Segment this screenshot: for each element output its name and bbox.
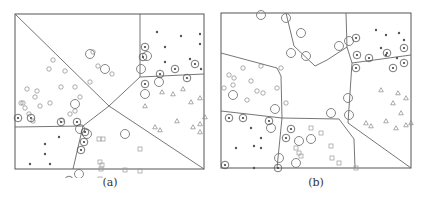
star-point-icon bbox=[375, 29, 377, 31]
star-point-icon bbox=[386, 52, 388, 54]
star-point-icon bbox=[268, 120, 270, 122]
star-point-icon bbox=[368, 57, 370, 59]
support-vector-marker bbox=[229, 91, 238, 100]
star-point-icon bbox=[403, 47, 405, 49]
support-vector-marker bbox=[302, 52, 311, 61]
circle-point-icon bbox=[279, 66, 283, 70]
triangle-point-icon bbox=[364, 121, 369, 125]
circle-point-icon bbox=[284, 101, 288, 105]
triangle-point-icon bbox=[404, 96, 409, 100]
star-point-icon bbox=[380, 47, 382, 49]
square-point-icon bbox=[309, 126, 313, 130]
star-point-icon bbox=[235, 147, 237, 149]
star-point-icon bbox=[250, 127, 252, 129]
square-point-icon bbox=[330, 156, 334, 160]
star-point-icon bbox=[403, 62, 405, 64]
triangle-point-icon bbox=[399, 111, 404, 115]
support-vector-marker bbox=[292, 159, 301, 168]
boundary-line bbox=[348, 63, 411, 168]
boundary-line bbox=[286, 13, 347, 66]
triangle-point-icon bbox=[394, 126, 399, 130]
star-point-icon bbox=[285, 137, 287, 139]
circle-point-icon bbox=[259, 64, 263, 68]
star-point-icon bbox=[290, 128, 292, 130]
circle-point-icon bbox=[245, 98, 249, 102]
circle-point-icon bbox=[227, 73, 231, 77]
boundary-line bbox=[277, 118, 282, 168]
star-point-icon bbox=[253, 145, 255, 147]
triangle-point-icon bbox=[384, 119, 389, 123]
circle-point-icon bbox=[275, 86, 279, 90]
star-point-icon bbox=[277, 167, 279, 169]
circle-point-icon bbox=[249, 79, 253, 83]
boundary-line bbox=[221, 53, 282, 118]
support-vector-marker bbox=[327, 109, 336, 118]
star-point-icon bbox=[260, 147, 262, 149]
decision-boundary-plot-b bbox=[0, 0, 424, 178]
circle-point-icon bbox=[241, 66, 245, 70]
circle-point-icon bbox=[255, 89, 259, 93]
star-point-icon bbox=[224, 164, 226, 166]
star-point-icon bbox=[228, 117, 230, 119]
caption-b: (b) bbox=[296, 176, 336, 189]
support-vector-marker bbox=[257, 11, 266, 20]
star-point-icon bbox=[403, 39, 405, 41]
triangle-point-icon bbox=[379, 88, 384, 92]
star-point-icon bbox=[260, 137, 262, 139]
support-vector-marker bbox=[307, 135, 316, 144]
support-vector-marker bbox=[271, 105, 280, 114]
star-point-icon bbox=[398, 32, 400, 34]
star-point-icon bbox=[396, 57, 398, 59]
plot-area bbox=[221, 11, 413, 172]
star-point-icon bbox=[242, 117, 244, 119]
triangle-point-icon bbox=[369, 124, 374, 128]
triangle-point-icon bbox=[391, 101, 396, 105]
square-point-icon bbox=[329, 144, 333, 148]
circle-point-icon bbox=[222, 86, 226, 90]
square-point-icon bbox=[337, 161, 341, 165]
star-point-icon bbox=[355, 37, 357, 39]
star-point-icon bbox=[392, 67, 394, 69]
support-vector-marker bbox=[295, 137, 304, 146]
support-vector-marker bbox=[335, 42, 344, 51]
star-point-icon bbox=[253, 167, 255, 169]
star-point-icon bbox=[355, 67, 357, 69]
square-point-icon bbox=[294, 146, 298, 150]
support-vector-marker bbox=[344, 94, 353, 103]
support-vector-marker bbox=[275, 154, 284, 163]
star-point-icon bbox=[385, 54, 387, 56]
star-point-icon bbox=[385, 34, 387, 36]
circle-point-icon bbox=[261, 91, 265, 95]
circle-point-icon bbox=[232, 76, 236, 80]
support-vector-marker bbox=[287, 49, 296, 58]
star-point-icon bbox=[356, 54, 358, 56]
support-vector-marker bbox=[297, 29, 306, 38]
circle-point-icon bbox=[231, 83, 235, 87]
square-point-icon bbox=[319, 131, 323, 135]
triangle-point-icon bbox=[404, 123, 409, 127]
triangle-point-icon bbox=[396, 91, 401, 95]
